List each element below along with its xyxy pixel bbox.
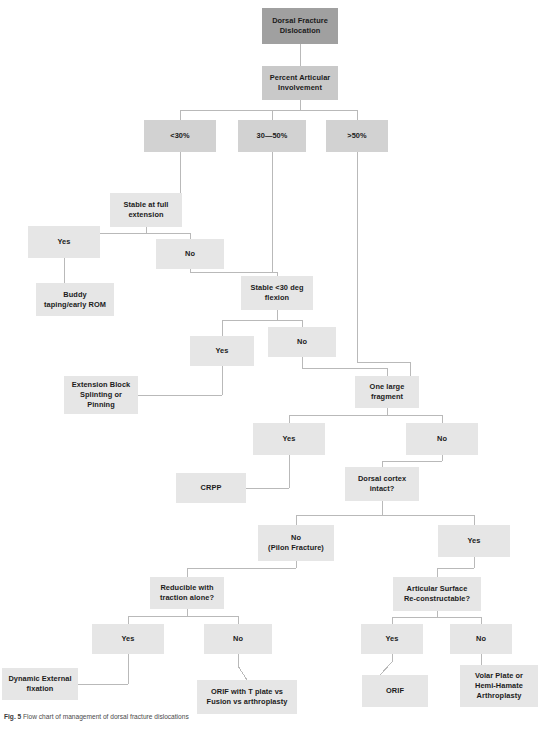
node-reducible-yes[interactable]: Yes xyxy=(92,624,164,654)
node-articular-surface-reconstructable[interactable]: Articular Surface Re-constructable? xyxy=(393,577,481,611)
node-label: ORIF xyxy=(365,686,425,696)
flowchart-connectors xyxy=(0,0,556,729)
node-dorsal-cortex-intact[interactable]: Dorsal cortex intact? xyxy=(345,467,419,501)
node-one-large-fragment[interactable]: One large fragment xyxy=(355,376,419,408)
figure-caption: Fig. 5 Flow chart of management of dorsa… xyxy=(4,712,424,721)
node-percent-articular-involvement[interactable]: Percent Articular Involvement xyxy=(262,66,338,100)
node-label: No xyxy=(453,634,509,644)
node-articular-no[interactable]: No xyxy=(450,624,512,654)
node-label: Yes xyxy=(256,434,322,444)
node-label: Articular Surface Re-constructable? xyxy=(396,584,478,604)
node-label: No xyxy=(271,337,333,347)
node-orif-with-t-plate-fusion-arthroplasty[interactable]: ORIF with T plate vs Fusion vs arthropla… xyxy=(197,680,297,714)
node-extension-block-splinting-or-pinning[interactable]: Extension Block Splinting or Pinning xyxy=(64,376,138,414)
node-label: >50% xyxy=(329,131,385,141)
node-label: 30—50% xyxy=(241,131,303,141)
node-buddy-taping-early-rom[interactable]: Buddy taping/early ROM xyxy=(36,283,114,316)
node-articular-yes[interactable]: Yes xyxy=(361,624,423,654)
node-label: Buddy taping/early ROM xyxy=(39,290,111,310)
figure-caption-text: Flow chart of management of dorsal fract… xyxy=(23,713,189,720)
node-flexion-yes[interactable]: Yes xyxy=(190,336,254,366)
node-label: Dorsal cortex intact? xyxy=(348,474,416,494)
node-label: Extension Block Splinting or Pinning xyxy=(67,380,135,409)
node-label: No xyxy=(409,434,475,444)
node-label: Yes xyxy=(193,346,251,356)
node-label: Dorsal Fracture Dislocation xyxy=(265,16,335,36)
node-less-than-30-percent[interactable]: <30% xyxy=(144,120,216,152)
figure-number: Fig. 5 xyxy=(4,713,21,720)
node-extension-yes[interactable]: Yes xyxy=(28,226,100,258)
node-volar-plate-hemi-hamate-arthroplasty[interactable]: Volar Plate or Hemi-Hamate Arthroplasty xyxy=(460,665,538,707)
node-dorsal-fracture-dislocation[interactable]: Dorsal Fracture Dislocation xyxy=(262,8,338,44)
node-label: Percent Articular Involvement xyxy=(265,73,335,93)
node-label: <30% xyxy=(147,131,213,141)
node-fragment-yes[interactable]: Yes xyxy=(253,423,325,455)
node-label: Dynamic External fixation xyxy=(5,674,75,694)
node-label: ORIF with T plate vs Fusion vs arthropla… xyxy=(200,687,294,707)
node-cortex-no-pilon-fracture[interactable]: No (Pilon Fracture) xyxy=(258,525,334,561)
node-reducible-with-traction-alone[interactable]: Reducible with traction alone? xyxy=(150,577,224,609)
node-flexion-no[interactable]: No xyxy=(268,327,336,357)
node-fragment-no[interactable]: No xyxy=(406,423,478,455)
node-stable-at-full-extension[interactable]: Stable at full extension xyxy=(110,193,182,227)
node-label: One large fragment xyxy=(358,382,416,402)
node-label: CRPP xyxy=(179,483,243,493)
node-greater-than-50-percent[interactable]: >50% xyxy=(326,120,388,152)
node-dynamic-external-fixation[interactable]: Dynamic External fixation xyxy=(2,668,78,700)
node-stable-under-30-deg-flexion[interactable]: Stable <30 deg flexion xyxy=(241,276,313,310)
node-cortex-yes[interactable]: Yes xyxy=(438,525,510,557)
node-label: Yes xyxy=(95,634,161,644)
node-label: Yes xyxy=(364,634,420,644)
node-label: Yes xyxy=(31,237,97,247)
node-label: Volar Plate or Hemi-Hamate Arthroplasty xyxy=(463,671,535,700)
node-crpp[interactable]: CRPP xyxy=(176,473,246,503)
node-30-to-50-percent[interactable]: 30—50% xyxy=(238,120,306,152)
node-orif[interactable]: ORIF xyxy=(362,675,428,707)
node-label: Yes xyxy=(441,536,507,546)
node-label: Reducible with traction alone? xyxy=(153,583,221,603)
figure-page: Dorsal Fracture Dislocation Percent Arti… xyxy=(0,0,556,729)
node-label: No (Pilon Fracture) xyxy=(261,533,331,553)
node-label: Stable <30 deg flexion xyxy=(244,283,310,303)
node-label: Stable at full extension xyxy=(113,200,179,220)
node-extension-no[interactable]: No xyxy=(156,239,224,269)
node-label: No xyxy=(159,249,221,259)
node-reducible-no[interactable]: No xyxy=(204,624,272,654)
node-label: No xyxy=(207,634,269,644)
